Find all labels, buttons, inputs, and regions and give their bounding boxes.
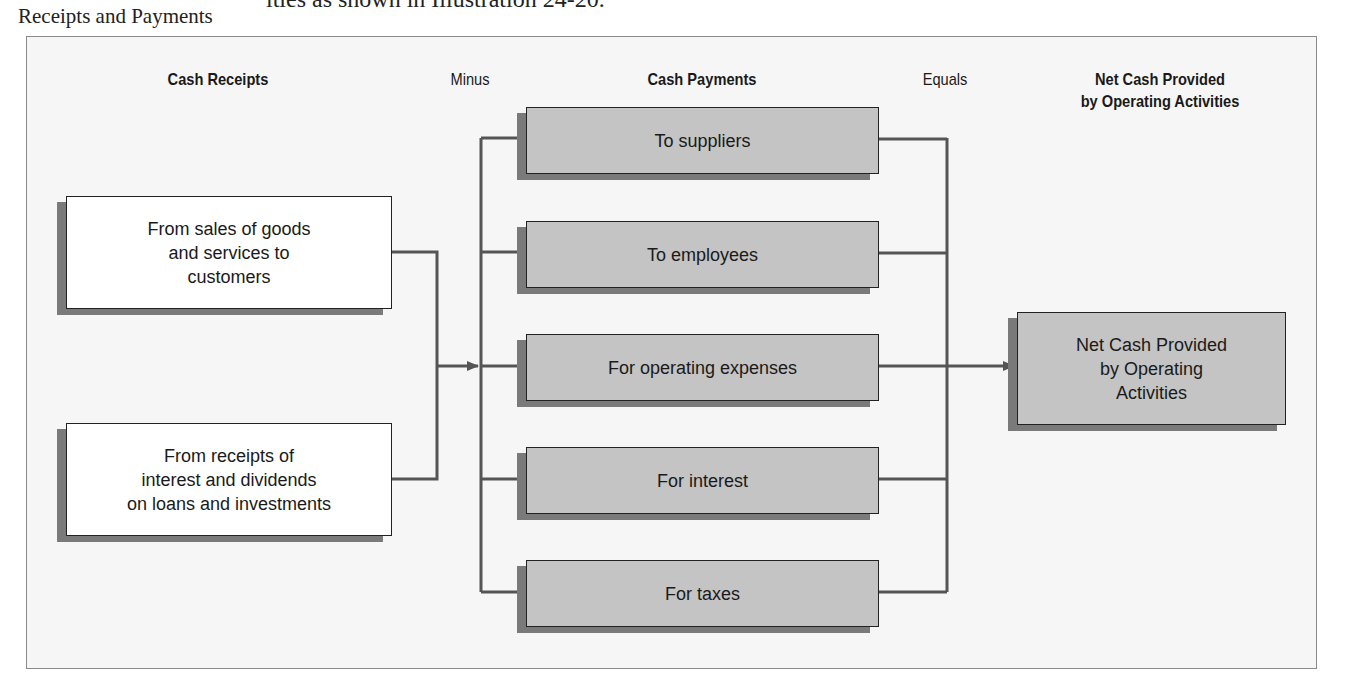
payment-box-suppliers: To suppliers [526, 107, 879, 174]
receipt-line: From receipts of [127, 444, 331, 468]
result-box-net-cash: Net Cash Provided by Operating Activitie… [1017, 312, 1286, 425]
payment-box-employees: To employees [526, 221, 879, 288]
receipt-box-sales: From sales of goods and services to cust… [66, 196, 392, 309]
payment-label: For operating expenses [608, 356, 797, 380]
payment-box-operating-expenses: For operating expenses [526, 334, 879, 401]
payment-box-interest: For interest [526, 447, 879, 514]
receipt-line: customers [147, 265, 310, 289]
payment-label: To suppliers [654, 129, 750, 153]
receipt-line: on loans and investments [127, 492, 331, 516]
payment-box-taxes: For taxes [526, 560, 879, 627]
header-cash-payments: Cash Payments [625, 69, 780, 91]
header-net-cash: Net Cash Provided by Operating Activitie… [1065, 69, 1254, 113]
header-minus: Minus [427, 69, 513, 91]
result-line: Activities [1076, 381, 1227, 405]
header-cash-receipts: Cash Receipts [141, 69, 296, 91]
result-line: Net Cash Provided [1076, 333, 1227, 357]
header-net-cash-line1: Net Cash Provided [1065, 69, 1254, 91]
receipt-line: From sales of goods [147, 217, 310, 241]
payment-label: To employees [647, 243, 758, 267]
header-net-cash-line2: by Operating Activities [1065, 91, 1254, 113]
payment-label: For interest [657, 469, 748, 493]
header-equals: Equals [898, 69, 993, 91]
result-line: by Operating [1076, 357, 1227, 381]
payment-label: For taxes [665, 582, 740, 606]
receipt-box-interest-dividends: From receipts of interest and dividends … [66, 423, 392, 536]
receipt-line: and services to [147, 241, 310, 265]
receipt-line: interest and dividends [127, 468, 331, 492]
